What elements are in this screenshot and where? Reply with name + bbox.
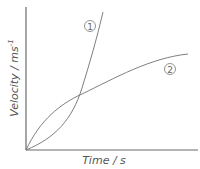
curve-2-label: 2 — [165, 64, 176, 75]
svg-text:1: 1 — [87, 22, 93, 32]
x-axis-label: Time / s — [82, 154, 126, 167]
svg-text:2: 2 — [167, 65, 173, 75]
curve-1 — [26, 12, 103, 150]
svg-text:Velocity / ms-1: Velocity / ms-1 — [7, 39, 21, 117]
y-axis-label-main: Velocity / ms — [8, 46, 21, 117]
y-axis-label: Velocity / ms-1 — [7, 39, 21, 117]
velocity-time-graph: 1 2 Time / s Velocity / ms-1 — [0, 0, 200, 169]
curve-1-label: 1 — [85, 21, 96, 32]
y-axis-label-superscript: -1 — [7, 39, 15, 46]
curve-2 — [26, 54, 188, 150]
